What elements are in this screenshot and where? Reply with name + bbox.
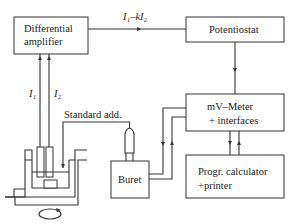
mv-meter-label-1: mV–Meter [207, 101, 254, 112]
differential-amplifier-block: Differential amplifier [14, 17, 88, 54]
standard-addition-line: Standard add. [61, 109, 130, 168]
buret-label: Buret [118, 174, 141, 185]
calculator-block: Progr. calculator +printer [186, 155, 284, 198]
meter-calculator-lines [228, 131, 241, 155]
output-signal-line: I₁–kI₂ [88, 11, 186, 31]
differential-amplifier-label-1: Differential [24, 23, 73, 34]
buret-tip-icon [126, 153, 133, 161]
calculator-label-1: Progr. calculator [198, 166, 268, 177]
differential-amplifier-label-2: amplifier [24, 36, 63, 47]
potentiostat-to-meter-line [233, 42, 237, 94]
buret-meter-lines [149, 108, 186, 179]
electrochemical-setup-diagram: Differential amplifier Potentiostat mV–M… [0, 0, 299, 224]
calculator-label-2: +printer [198, 180, 232, 191]
i1-label: I₁ [28, 88, 36, 99]
buret-nozzle-icon [125, 128, 134, 153]
output-signal-label: I₁–kI₂ [122, 11, 148, 22]
potentiostat-block: Potentiostat [186, 17, 284, 42]
stirring-rotation-icon [39, 208, 61, 219]
buret-block: Buret [111, 128, 149, 198]
potentiostat-label: Potentiostat [209, 24, 259, 35]
mv-meter-label-2: + interfaces [209, 115, 258, 126]
standard-addition-label: Standard add. [64, 109, 122, 120]
i2-label: I₂ [53, 88, 61, 99]
mv-meter-block: mV–Meter + interfaces [186, 94, 284, 131]
electrode-signal-lines: I₁ I₂ [28, 54, 61, 147]
